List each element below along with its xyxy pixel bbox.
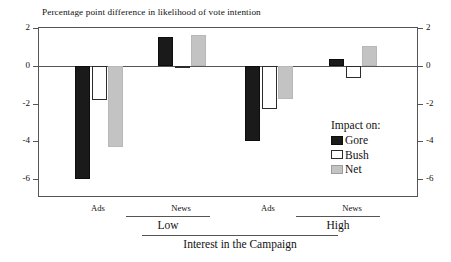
bar-net-news-low: [191, 35, 206, 66]
xgroup-label-low: Low: [157, 219, 178, 231]
ytick-label-left-neg6: -6: [23, 174, 31, 183]
x-rule-low-leaf: [126, 216, 210, 217]
legend-item-net[interactable]: Net: [331, 163, 381, 176]
xtick-label-news-high: News: [342, 203, 362, 213]
legend-swatch-net-icon: [331, 165, 343, 174]
xtick-label-ads-low: Ads: [91, 203, 105, 213]
bar-net-news-high: [362, 46, 377, 66]
ytick-label-right-neg4: -4: [426, 136, 434, 145]
bar-bush-news-high: [346, 66, 361, 78]
legend-swatch-gore-icon: [331, 136, 343, 145]
chart-figure: Percentage point difference in likelihoo…: [0, 0, 451, 262]
xgroup-label-high: High: [327, 219, 350, 231]
bar-bush-ads-high: [262, 66, 277, 109]
tick-mark-right-2: [417, 28, 423, 29]
ytick-label-right-neg6: -6: [426, 174, 434, 183]
chart-title: Percentage point difference in likelihoo…: [42, 7, 261, 17]
legend-item-bush[interactable]: Bush: [331, 149, 381, 162]
ytick-label-left-0: 0: [26, 61, 31, 70]
legend: Impact on: Gore Bush Net: [331, 119, 381, 178]
bar-gore-ads-high: [245, 66, 260, 142]
ytick-label-left-neg2: -2: [23, 99, 31, 108]
plot-area: 2 2 0 0 -2 -2 -4 -4 -6 -6 Impact on: Gor…: [38, 27, 418, 197]
tick-mark-right-neg4: [417, 141, 423, 142]
legend-title: Impact on:: [331, 119, 381, 131]
tick-mark-right-neg2: [417, 104, 423, 105]
legend-swatch-bush-icon: [331, 150, 343, 159]
xtick-label-ads-high: Ads: [261, 203, 275, 213]
bar-gore-ads-low: [75, 66, 90, 179]
ytick-label-right-neg2: -2: [426, 99, 434, 108]
legend-label-net: Net: [345, 163, 362, 176]
x-axis: Ads News Ads News Low High Interest in t…: [0, 199, 451, 262]
bar-net-ads-high: [278, 66, 293, 99]
ytick-label-right-0: 0: [426, 61, 431, 70]
tick-mark-right-neg6: [417, 179, 423, 180]
tick-mark-right-0: [417, 66, 423, 67]
bar-gore-news-low: [158, 37, 173, 66]
legend-item-gore[interactable]: Gore: [331, 134, 381, 147]
bar-bush-ads-low: [92, 66, 107, 100]
ytick-label-left-neg4: -4: [23, 136, 31, 145]
x-rule-high-leaf: [296, 216, 380, 217]
ytick-label-left-2: 2: [26, 23, 31, 32]
legend-label-gore: Gore: [345, 134, 368, 147]
bar-gore-news-high: [329, 59, 344, 66]
legend-label-bush: Bush: [345, 149, 369, 162]
x-rule-root: [142, 235, 338, 236]
ytick-label-right-2: 2: [426, 23, 431, 32]
xtick-label-news-low: News: [171, 203, 191, 213]
x-axis-title: Interest in the Campaign: [183, 238, 296, 250]
bar-net-ads-low: [108, 66, 123, 147]
bar-bush-news-low: [175, 66, 190, 68]
